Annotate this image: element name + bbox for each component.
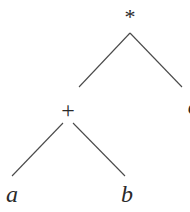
node-root-multiply: * bbox=[125, 4, 136, 29]
node-b: b bbox=[121, 181, 133, 207]
edge-plus-b bbox=[73, 123, 125, 176]
node-plus: + bbox=[61, 97, 75, 123]
edge-plus-a bbox=[12, 123, 63, 176]
node-a: a bbox=[6, 181, 18, 207]
expression-tree: * + a b c bbox=[0, 0, 190, 212]
edge-root-c bbox=[130, 33, 182, 87]
node-c: c bbox=[188, 93, 190, 119]
edge-root-plus bbox=[79, 33, 130, 87]
